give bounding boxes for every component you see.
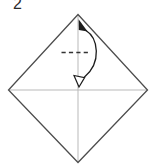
fold-unfold-arrow-curve [85,31,97,78]
open-arrowhead [74,76,85,88]
origami-step-figure: 2 [0,0,156,168]
diagram-canvas [0,0,156,168]
filled-arrowhead [79,19,88,31]
